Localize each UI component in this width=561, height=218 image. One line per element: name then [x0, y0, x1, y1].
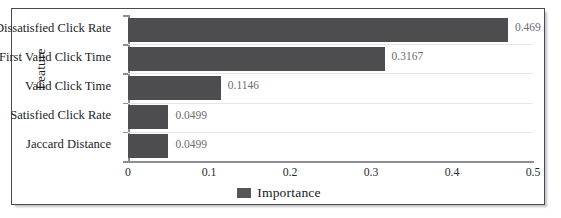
legend-label-importance: Importance	[257, 185, 320, 201]
category-label: First Valid Click Time	[0, 50, 111, 65]
bar	[128, 76, 221, 100]
y-axis-tick	[123, 103, 128, 105]
category-label: Satisfied Click Rate	[10, 108, 111, 123]
category-label: Valid Click Time	[25, 79, 111, 94]
bar-chart: Feature 0.469Dissatisfied Click Rate0.31…	[12, 9, 546, 206]
x-axis-tick-label: 0	[125, 165, 131, 180]
x-axis-tick-label: 0.1	[202, 165, 217, 180]
y-axis-title: Feature	[33, 24, 49, 114]
y-axis-tick	[123, 73, 128, 75]
bar-row: 0.0499Jaccard Distance	[128, 132, 533, 161]
bar-row: 0.469Dissatisfied Click Rate	[128, 15, 533, 44]
category-label: Dissatisfied Click Rate	[0, 21, 111, 36]
bar-value-label: 0.0499	[175, 109, 207, 121]
y-axis-tick	[123, 132, 128, 134]
y-axis-tick	[123, 15, 128, 17]
x-axis-tick-label: 0.2	[283, 165, 298, 180]
y-axis-tick	[123, 161, 128, 163]
bar	[128, 105, 168, 129]
bar-value-label: 0.0499	[175, 138, 207, 150]
bar-value-label: 0.1146	[228, 79, 259, 91]
bar-value-label: 0.3167	[392, 50, 424, 62]
bar-value-label: 0.469	[515, 21, 541, 33]
bar-row: 0.0499Satisfied Click Rate	[128, 103, 533, 132]
bar	[128, 47, 385, 71]
bar	[128, 134, 168, 158]
figure-frame: Feature 0.469Dissatisfied Click Rate0.31…	[11, 8, 545, 205]
category-label: Jaccard Distance	[26, 137, 111, 152]
bar-row: 0.1146Valid Click Time	[128, 73, 533, 102]
y-axis-tick	[123, 44, 128, 46]
plot-area: 0.469Dissatisfied Click Rate0.3167First …	[128, 15, 533, 161]
x-axis-tick-label: 0.4	[445, 165, 460, 180]
x-axis-tick-label: 0.3	[364, 165, 379, 180]
x-axis-line	[128, 161, 534, 163]
legend-swatch-importance	[237, 188, 251, 198]
bar	[128, 18, 508, 42]
bar-row: 0.3167First Valid Click Time	[128, 44, 533, 73]
legend: Importance	[12, 185, 546, 201]
x-axis-tick-label: 0.5	[526, 165, 541, 180]
